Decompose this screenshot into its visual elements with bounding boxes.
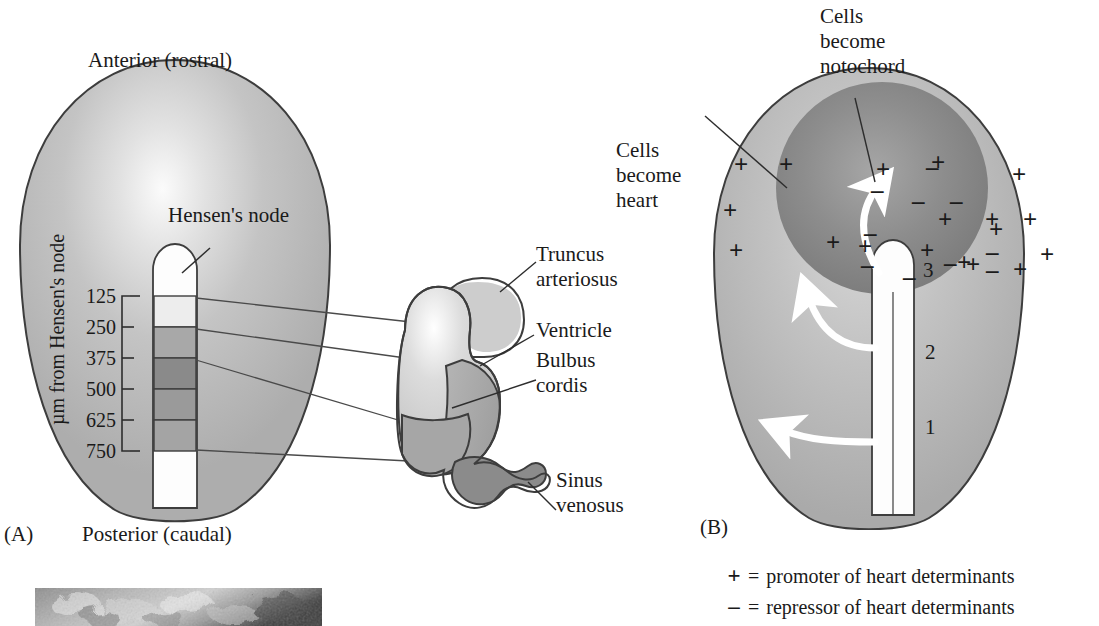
panel-b-id: (B) — [700, 515, 728, 540]
scale-tick-625: 625 — [60, 409, 116, 433]
panel-a-posterior-label: Posterior (caudal) — [82, 522, 232, 547]
minus-symbol: – — [912, 186, 925, 216]
minus-symbol: – — [861, 250, 874, 280]
scale-tick-250: 250 — [60, 316, 116, 340]
plus-symbol: + — [826, 228, 840, 258]
label-sinus-venosus-line2: venosus — [556, 493, 624, 518]
streak-stage-2: 2 — [925, 340, 936, 365]
plus-symbol: + — [938, 205, 952, 235]
plus-symbol: + — [734, 150, 748, 180]
callout-notochord-line3: notochord — [820, 54, 905, 79]
plus-symbol: + — [957, 248, 971, 278]
streak-stage-1: 1 — [925, 415, 936, 440]
plus-symbol: + — [1023, 205, 1037, 235]
label-ventricle: Ventricle — [536, 318, 612, 343]
minus-symbol: – — [944, 248, 957, 278]
plus-symbol: + — [1012, 160, 1026, 190]
heart-tube-graphic — [397, 278, 550, 508]
minus-symbol: – — [871, 175, 884, 205]
callout-heart-line3: heart — [616, 188, 658, 213]
hensens-node-label: Hensen's node — [168, 203, 289, 228]
scale-tick-750: 750 — [60, 440, 116, 464]
streak-fate-bands — [154, 296, 196, 451]
legend-item-repressor: – = repressor of heart determinants — [727, 594, 1015, 620]
minus-symbol: – — [903, 262, 916, 292]
legend-equals: = — [748, 565, 759, 588]
legend-plus-icon: + — [727, 563, 741, 589]
micrograph-image — [35, 588, 322, 626]
legend-promoter-text: promoter of heart determinants — [766, 565, 1014, 588]
streak-stage-3: 3 — [923, 258, 934, 283]
legend: + = promoter of heart determinants – = r… — [727, 563, 1015, 620]
callout-notochord-line2: become — [820, 29, 885, 54]
plus-symbol: + — [1013, 255, 1027, 285]
minus-symbol: – — [986, 255, 999, 285]
legend-repressor-text: repressor of heart determinants — [766, 596, 1014, 619]
panel-b-graphic — [679, 10, 1099, 530]
plus-symbol: + — [1040, 240, 1054, 270]
plus-symbol: + — [779, 150, 793, 180]
plus-symbol: + — [729, 236, 743, 266]
callout-heart-line1: Cells — [616, 138, 659, 163]
callout-notochord-line1: Cells — [820, 4, 863, 29]
label-bulbus-cordis-line2: cordis — [536, 373, 587, 398]
legend-equals: = — [748, 596, 759, 619]
callout-heart-line2: become — [616, 163, 681, 188]
scale-tick-375: 375 — [60, 347, 116, 371]
label-sinus-venosus-line1: Sinus — [556, 468, 603, 493]
label-truncus-arteriosus-line2: arteriosus — [536, 267, 618, 292]
figure-root: Anterior (rostral) Posterior (caudal) (A… — [0, 0, 1099, 626]
scanning-electron-micrograph — [35, 588, 322, 626]
scale-tick-125: 125 — [60, 285, 116, 309]
panel-a-id: (A) — [4, 522, 33, 547]
label-bulbus-cordis-line1: Bulbus — [536, 348, 596, 373]
legend-minus-icon: – — [727, 594, 741, 620]
scale-tick-500: 500 — [60, 378, 116, 402]
plus-symbol: + — [723, 196, 737, 226]
panel-a-anterior-label: Anterior (rostral) — [88, 48, 232, 73]
label-truncus-arteriosus-line1: Truncus — [536, 242, 604, 267]
legend-item-promoter: + = promoter of heart determinants — [727, 563, 1015, 589]
minus-symbol: – — [926, 152, 939, 182]
